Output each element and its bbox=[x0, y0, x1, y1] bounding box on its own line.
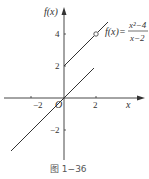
x-axis-label: x bbox=[125, 99, 131, 110]
function-label-lhs: f(x)= bbox=[105, 26, 126, 38]
y-tick-label-4: 4 bbox=[55, 29, 60, 39]
function-label-numerator: x²−4 bbox=[128, 20, 147, 30]
y-axis-arrow-icon bbox=[62, 7, 67, 15]
x-tick-label-neg2: −2 bbox=[33, 100, 43, 110]
hole-point bbox=[94, 32, 98, 36]
y-tick-label-2: 2 bbox=[55, 61, 60, 71]
y-axis-label: f(x) bbox=[44, 6, 59, 18]
function-label-denominator: x−2 bbox=[129, 33, 145, 43]
x-tick-label-2: 2 bbox=[93, 100, 98, 110]
function-line-lower-2 bbox=[64, 36, 94, 66]
origin-label: O bbox=[55, 99, 62, 110]
y-tick-label-neg2: −2 bbox=[50, 125, 60, 135]
function-graph: f(x) x O 4 2 −2 −2 2 f(x)= x²−4 x−2 图 1−… bbox=[0, 0, 149, 179]
figure-caption: 图 1−36 bbox=[50, 164, 87, 174]
function-line-lower bbox=[11, 68, 94, 151]
x-axis-arrow-icon bbox=[137, 96, 145, 101]
